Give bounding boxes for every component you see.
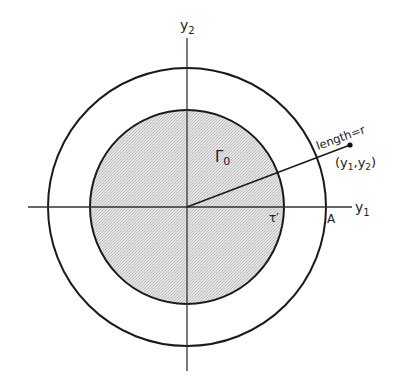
point-coordinate-label: (y1,y2)	[335, 155, 376, 172]
point-a-label: A	[327, 212, 336, 226]
point-y1-y2	[347, 142, 352, 147]
y2-axis-label: y2	[180, 17, 195, 36]
diagram-canvas: y2 y1 Γ0 τ′ A length=r (y1,y2)	[0, 0, 396, 392]
tau-prime-label: τ′	[269, 211, 279, 225]
y1-axis-label: y1	[355, 199, 370, 218]
